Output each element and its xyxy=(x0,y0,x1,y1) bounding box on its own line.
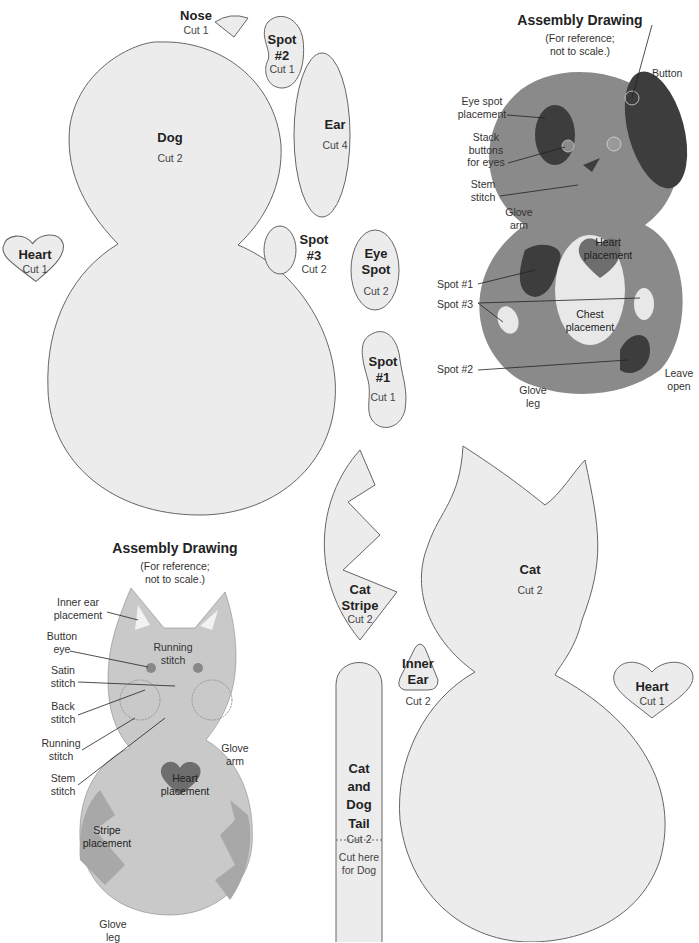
tail-label: Cat and Dog Tail Cut 2 Cut here for Dog xyxy=(338,760,380,877)
dog-ann-chest: Chest placement xyxy=(560,308,620,333)
nose-label: Nose Cut 1 xyxy=(176,8,216,36)
dog-label: Dog Cut 2 xyxy=(140,130,200,164)
cat-assembly-title: Assembly Drawing xyxy=(100,540,250,556)
ear-title: Ear xyxy=(310,117,360,133)
dog-assembly-title: Assembly Drawing xyxy=(505,12,655,28)
spot3-label: Spot #3 Cut 2 xyxy=(294,232,334,276)
inner-ear-title: Inner Ear xyxy=(398,656,438,687)
tail-cut: Cut 2 xyxy=(338,833,380,846)
dog-piece xyxy=(48,42,336,515)
dog-ann-heart: Heart placement xyxy=(580,236,636,261)
cat-ann-button-eye: Button eye xyxy=(42,630,82,655)
dog-ann-glove-leg: Glove leg xyxy=(516,384,550,409)
spot3-piece xyxy=(264,226,296,274)
cat-ann-stripe: Stripe placement xyxy=(78,824,136,849)
spot1-title: Spot #1 xyxy=(362,354,404,385)
cat-ann-running-top: Running stitch xyxy=(150,641,196,666)
dog-ann-leave-open: Leave open xyxy=(662,367,696,392)
cat-ann-back: Back stitch xyxy=(46,700,80,725)
dog-ann-spot1: Spot #1 xyxy=(432,278,478,291)
eye-spot-title: Eye Spot xyxy=(355,246,397,277)
dog-assembly-subtitle-2: not to scale.) xyxy=(505,45,655,58)
ear-cut: Cut 4 xyxy=(310,139,360,152)
dog-ann-button: Button xyxy=(652,67,698,80)
cat-assembly-subtitle-1: (For reference; xyxy=(100,560,250,573)
cat-ann-stem: Stem stitch xyxy=(46,772,80,797)
heart-right-label: Heart Cut 1 xyxy=(627,679,677,707)
dog-ann-stack: Stack buttons for eyes xyxy=(462,131,510,169)
dog-assembly-subtitle-1: (For reference; xyxy=(505,32,655,45)
cat-ann-heart: Heart placement xyxy=(156,772,214,797)
eye-spot-cut: Cut 2 xyxy=(355,285,397,298)
cat-cut: Cut 2 xyxy=(500,584,560,597)
cat-ann-inner-ear: Inner ear placement xyxy=(48,596,108,621)
heart-left-label: Heart Cut 1 xyxy=(10,247,60,275)
heart-left-title: Heart xyxy=(10,247,60,263)
cat-stripe-label: Cat Stripe Cut 2 xyxy=(336,582,384,626)
cat-assembly-subtitle-2: not to scale.) xyxy=(100,573,250,586)
dog-ann-spot3: Spot #3 xyxy=(432,298,478,311)
spot1-cut: Cut 1 xyxy=(362,391,404,404)
cat-stripe-cut: Cut 2 xyxy=(336,613,384,626)
heart-right-cut: Cut 1 xyxy=(627,695,677,708)
spot1-label: Spot #1 Cut 1 xyxy=(362,354,404,404)
dog-title: Dog xyxy=(140,130,200,146)
cat-ann-glove-arm: Glove arm xyxy=(218,742,252,767)
cat-ann-glove-leg: Glove leg xyxy=(96,918,130,943)
dog-ann-stem: Stem stitch xyxy=(464,178,502,203)
cat-stripe-title: Cat Stripe xyxy=(336,582,384,613)
nose-title: Nose xyxy=(176,8,216,24)
spot2-label: Spot #2 Cut 1 xyxy=(262,32,302,76)
tail-title: Cat and Dog Tail xyxy=(338,760,380,833)
nose-piece xyxy=(215,16,248,37)
cat-ann-running: Running stitch xyxy=(38,737,84,762)
dog-assembly-subtitle: (For reference; not to scale.) xyxy=(505,32,655,58)
nose-cut: Cut 1 xyxy=(176,24,216,37)
eye-spot-label: Eye Spot Cut 2 xyxy=(355,246,397,298)
cat-assembly-subtitle: (For reference; not to scale.) xyxy=(100,560,250,586)
cat-ann-satin: Satin stitch xyxy=(46,664,80,689)
inner-ear-cut: Cut 2 xyxy=(398,695,438,708)
cat-title: Cat xyxy=(500,562,560,578)
dog-ann-glove-arm: Glove arm xyxy=(502,206,536,231)
spot3-cut: Cut 2 xyxy=(294,263,334,276)
dog-cut: Cut 2 xyxy=(140,152,200,165)
cat-label: Cat Cut 2 xyxy=(500,562,560,596)
dog-ann-eye-spot: Eye spot placement xyxy=(452,95,512,120)
heart-right-title: Heart xyxy=(627,679,677,695)
heart-left-cut: Cut 1 xyxy=(10,263,60,276)
spot2-title: Spot #2 xyxy=(262,32,302,63)
inner-ear-label: Inner Ear Cut 2 xyxy=(398,656,438,708)
ear-label: Ear Cut 4 xyxy=(310,117,360,151)
spot2-cut: Cut 1 xyxy=(262,63,302,76)
dog-ann-spot2: Spot #2 xyxy=(432,363,478,376)
spot3-title: Spot #3 xyxy=(294,232,334,263)
tail-cut-here-note: Cut here for Dog xyxy=(338,851,380,876)
